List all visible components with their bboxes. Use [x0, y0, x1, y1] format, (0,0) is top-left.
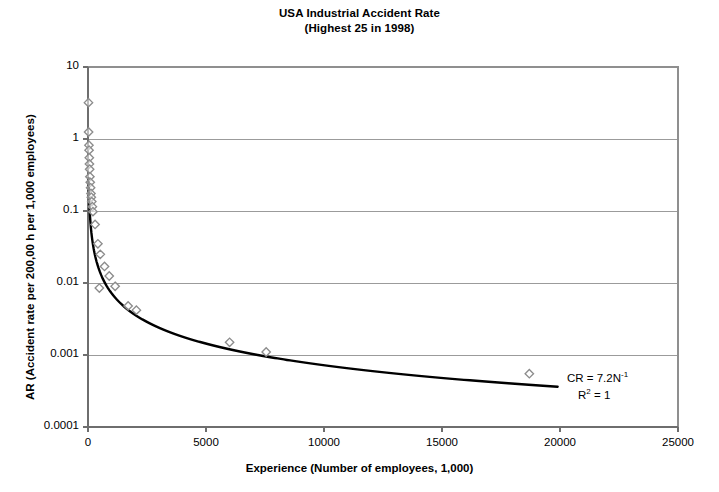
y-tick-label: 1	[73, 131, 79, 143]
x-tick-label: 10000	[284, 436, 364, 448]
y-tick-label: 0.0001	[44, 419, 79, 431]
x-tick-label: 20000	[520, 436, 600, 448]
x-tick-label: 5000	[166, 436, 246, 448]
x-tick-label: 25000	[638, 436, 718, 448]
x-tick-label: 15000	[402, 436, 482, 448]
r-squared-annotation: R2 = 1	[578, 383, 610, 404]
y-tick-label: 0.01	[57, 275, 79, 287]
r-squared-value: = 1	[594, 389, 610, 401]
y-tick-label: 0.001	[50, 347, 79, 359]
data-point-marker	[105, 272, 113, 280]
fit-equation-exponent: -1	[621, 370, 628, 379]
data-point-marker	[94, 240, 102, 248]
x-axis-title: Experience (Number of employees, 1,000)	[0, 462, 719, 474]
data-point-marker	[96, 250, 104, 258]
y-axis-title: AR (Accident rate per 200,00 h per 1,000…	[24, 114, 36, 400]
r-squared-exponent: 2	[586, 387, 590, 396]
plot-area	[0, 0, 719, 492]
y-tick-label: 10	[66, 59, 79, 71]
x-tick-label: 0	[48, 436, 128, 448]
data-point-marker	[225, 338, 233, 346]
data-point-marker	[95, 284, 103, 292]
chart-container: USA Industrial Accident Rate (Highest 25…	[0, 0, 719, 492]
data-point-marker	[84, 98, 92, 106]
data-point-marker	[91, 220, 99, 228]
y-tick-label: 0.1	[63, 203, 79, 215]
data-point-marker	[84, 128, 92, 136]
data-point-marker	[525, 369, 533, 377]
data-point-marker	[100, 262, 108, 270]
